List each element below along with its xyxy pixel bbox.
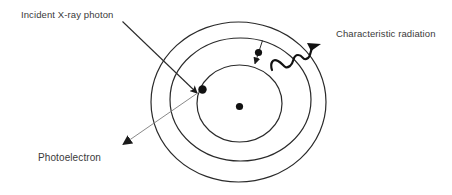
characteristic-radiation-label: Characteristic radiation <box>336 29 436 39</box>
photoelectron-label: Photoelectron <box>38 153 101 163</box>
nucleus <box>236 103 243 110</box>
incident-photon-label: Incident X-ray photon <box>21 10 113 20</box>
incident-photon-arrow <box>123 22 198 94</box>
falling-electron <box>255 49 262 56</box>
characteristic-radiation-wave <box>271 47 313 70</box>
ejected-electron <box>198 85 206 93</box>
photoelectron-arrow <box>123 90 202 145</box>
outer-shell <box>151 22 326 182</box>
characteristic-radiation-arrowhead <box>307 43 321 51</box>
